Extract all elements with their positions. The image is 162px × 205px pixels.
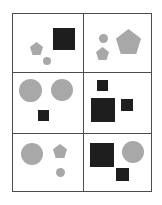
square-shape: [53, 28, 75, 50]
square-shape: [97, 80, 108, 91]
figure-canvas: [0, 0, 162, 205]
square-shape: [91, 98, 115, 122]
pentagon-shape: [116, 29, 141, 54]
square-shape: [121, 99, 133, 111]
square-shape: [116, 168, 129, 181]
shape-grid: [12, 13, 152, 192]
square-shape: [90, 143, 114, 167]
circle-shape: [43, 57, 51, 65]
cell-middle-right: [83, 72, 151, 133]
square-shape: [38, 110, 49, 121]
circle-shape: [99, 34, 108, 43]
cell-top-right: [83, 14, 151, 72]
cell-middle-left: [13, 72, 83, 133]
circle-shape: [51, 79, 73, 101]
circle-shape: [21, 143, 43, 165]
cell-bottom-left: [13, 133, 83, 191]
cell-top-left: [13, 14, 83, 72]
circle-shape: [19, 79, 42, 102]
circle-shape: [56, 168, 65, 177]
circle-shape: [122, 141, 144, 163]
pentagon-shape: [96, 47, 109, 60]
pentagon-shape: [30, 42, 43, 55]
pentagon-shape: [53, 144, 67, 158]
cell-bottom-right: [83, 133, 151, 191]
